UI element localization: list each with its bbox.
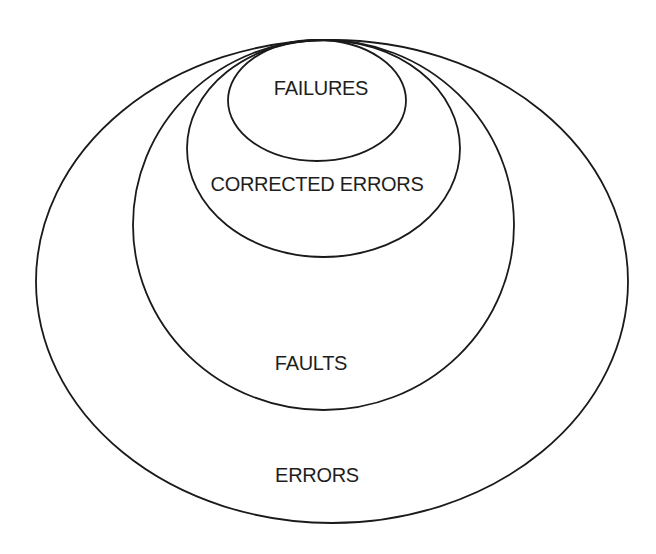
errors-label: ERRORS <box>275 464 359 486</box>
failures-ellipse <box>228 40 406 161</box>
corrected-errors-ellipse <box>187 40 460 257</box>
failures-label: FAILURES <box>274 77 368 99</box>
errors-ellipse <box>36 40 628 523</box>
nested-sets-diagram: FAILURES CORRECTED ERRORS FAULTS ERRORS <box>0 0 656 554</box>
corrected-errors-label: CORRECTED ERRORS <box>211 173 424 195</box>
faults-label: FAULTS <box>275 352 347 374</box>
